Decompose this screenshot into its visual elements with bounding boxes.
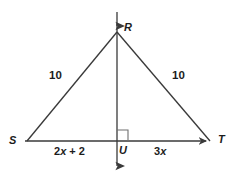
side-rs [27,32,117,141]
right-angle-icon [117,130,128,141]
geometry-diagram: R S T U 10 10 2x + 2 3x [0,0,236,178]
diagram-canvas [0,0,236,178]
side-rt [117,32,210,141]
